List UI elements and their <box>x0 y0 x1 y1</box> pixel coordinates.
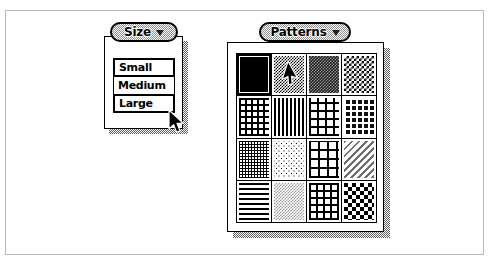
pattern-swatch-horizontal-stripes[interactable] <box>237 181 271 222</box>
pattern-swatch-diagonal-hatch[interactable] <box>342 139 376 180</box>
pattern-fill <box>309 141 339 178</box>
pattern-swatch-brick-weave[interactable] <box>307 139 341 180</box>
pattern-swatch-grid-dots[interactable] <box>237 96 271 137</box>
pattern-swatch-solid-black[interactable] <box>237 54 271 95</box>
size-option-small[interactable]: Small <box>113 58 175 77</box>
chevron-down-icon <box>332 30 340 36</box>
pattern-fill <box>239 56 269 93</box>
pattern-fill <box>239 183 269 220</box>
pattern-swatch-grey-dither[interactable] <box>272 181 306 222</box>
pattern-swatch-checkerboard-50[interactable] <box>272 54 306 95</box>
pattern-swatch-checkerboard-med[interactable] <box>342 54 376 95</box>
patterns-menu-title[interactable]: Patterns <box>259 22 351 42</box>
pattern-fill <box>309 183 339 220</box>
pattern-fill <box>274 183 304 220</box>
pattern-fill <box>274 98 304 135</box>
size-option-medium[interactable]: Medium <box>113 76 175 95</box>
size-menu-title[interactable]: Size <box>110 22 178 42</box>
pattern-fill <box>309 56 339 93</box>
pattern-swatch-dense-dark-grain[interactable] <box>307 54 341 95</box>
pattern-fill <box>239 141 269 178</box>
pattern-fill <box>239 98 269 135</box>
size-menu-label: Size <box>124 26 151 38</box>
pattern-fill <box>309 98 339 135</box>
patterns-panel <box>227 42 384 232</box>
pattern-fill <box>344 141 374 178</box>
pattern-swatch-vertical-stripes[interactable] <box>272 96 306 137</box>
pattern-swatch-fine-crosshatch[interactable] <box>237 139 271 180</box>
pattern-fill <box>344 56 374 93</box>
pattern-fill <box>344 98 374 135</box>
pattern-fill <box>274 141 304 178</box>
pattern-swatch-light-speckle[interactable] <box>272 139 306 180</box>
patterns-menu-label: Patterns <box>270 26 326 38</box>
size-option-label: Large <box>119 98 153 109</box>
pattern-swatch-dark-dot-grid[interactable] <box>342 96 376 137</box>
pattern-swatch-wide-grid[interactable] <box>307 181 341 222</box>
pattern-swatch-open-weave[interactable] <box>307 96 341 137</box>
chevron-down-icon <box>156 30 164 36</box>
pattern-swatch-grid[interactable] <box>236 53 377 223</box>
screenshot-canvas: SmallMediumLarge Size Patterns <box>0 0 493 271</box>
size-option-large[interactable]: Large <box>113 94 175 113</box>
size-panel: SmallMediumLarge <box>104 36 183 129</box>
size-option-label: Medium <box>118 80 166 91</box>
pattern-fill <box>344 183 374 220</box>
pattern-fill <box>274 56 304 93</box>
size-option-label: Small <box>119 62 152 73</box>
pattern-swatch-large-checker[interactable] <box>342 181 376 222</box>
size-option-list[interactable]: SmallMediumLarge <box>113 58 175 113</box>
